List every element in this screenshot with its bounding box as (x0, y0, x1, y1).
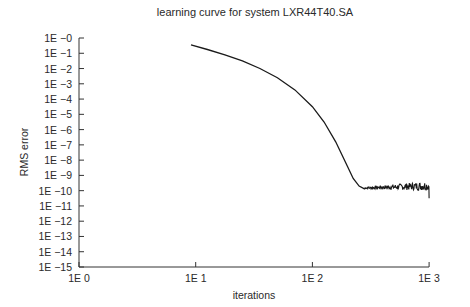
learning-curve-chart: learning curve for system LXR44T40.SA 1E… (0, 0, 470, 307)
x-tick-label: 1E 2 (302, 272, 324, 284)
y-tick-label: 1E −9 (44, 169, 72, 181)
y-tick-label: 1E −11 (39, 200, 72, 212)
x-axis-ticks: 1E 01E 11E 21E 3 (68, 262, 440, 284)
chart-title: learning curve for system LXR44T40.SA (157, 6, 354, 18)
y-tick-label: 1E −5 (44, 108, 72, 120)
y-tick-label: 1E −4 (44, 93, 72, 105)
x-tick-label: 1E 1 (185, 272, 207, 284)
learning-curve-noise (365, 183, 429, 198)
y-tick-label: 1E −2 (44, 63, 72, 75)
y-tick-label: 1E −0 (44, 32, 72, 44)
y-tick-label: 1E −7 (44, 139, 72, 151)
learning-curve-line (191, 45, 365, 189)
y-tick-label: 1E −6 (44, 124, 72, 136)
y-tick-label: 1E −12 (38, 215, 72, 227)
y-axis-ticks: 1E −01E −11E −21E −31E −41E −51E −61E −7… (38, 32, 84, 273)
y-tick-label: 1E −15 (38, 261, 72, 273)
y-tick-label: 1E −8 (44, 154, 72, 166)
x-tick-label: 1E 3 (418, 272, 440, 284)
y-tick-label: 1E −14 (38, 246, 72, 258)
y-axis-label: RMS error (18, 127, 30, 176)
y-tick-label: 1E −13 (38, 230, 72, 242)
y-tick-label: 1E −1 (44, 47, 72, 59)
y-tick-label: 1E −10 (38, 185, 72, 197)
y-tick-label: 1E −3 (44, 78, 72, 90)
x-axis-label: iterations (233, 289, 276, 301)
x-tick-label: 1E 0 (68, 272, 90, 284)
